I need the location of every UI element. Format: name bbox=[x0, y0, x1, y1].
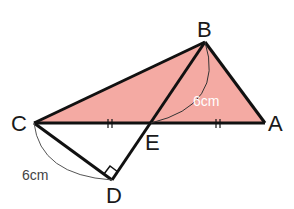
label-cd-length: 6cm bbox=[22, 167, 48, 183]
shaded-triangle-abc bbox=[34, 42, 265, 123]
label-e: E bbox=[145, 130, 160, 155]
label-d: D bbox=[106, 183, 122, 208]
label-c: C bbox=[11, 111, 27, 136]
label-be-length: 6cm bbox=[193, 93, 219, 109]
label-b: B bbox=[197, 17, 212, 42]
label-a: A bbox=[268, 111, 283, 136]
geometry-diagram: B C A E D 6cm 6cm bbox=[0, 0, 294, 209]
